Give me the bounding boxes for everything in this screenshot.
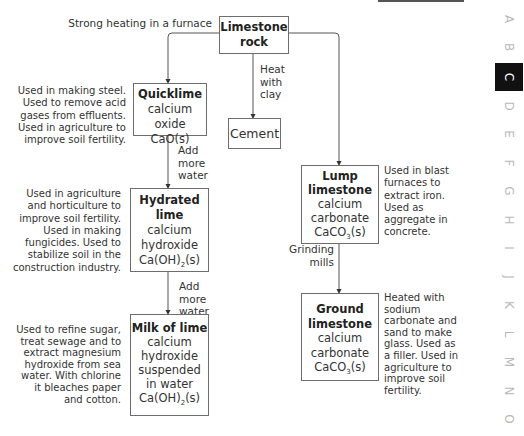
ground-limestone-formula: CaCO3(s) <box>302 360 378 375</box>
milk-of-lime-name-2: hydroxide <box>131 349 208 363</box>
index-letter-n[interactable]: N <box>496 378 522 404</box>
note-line: improve soil fertility. <box>8 213 121 225</box>
edge-label-line: mills <box>286 256 334 269</box>
hydrated-lime-node: Hydrated lime calcium hydroxide Ca(OH)2(… <box>130 188 209 272</box>
note-line: Heated with <box>384 292 476 304</box>
note-line: sodium <box>384 304 476 316</box>
note-line: stabilize soil in the <box>8 249 121 261</box>
note-line: Used to refine sugar, <box>8 324 121 336</box>
quicklime-name: calcium oxide <box>134 102 206 132</box>
hydrated-lime-title-1: Hydrated <box>131 193 208 208</box>
note-line: hydroxide from sea <box>8 359 121 371</box>
lump-limestone-title-2: limestone <box>302 183 378 197</box>
add-more-water-label-2: Add more water <box>179 280 209 318</box>
index-letter-k[interactable]: K <box>496 292 522 318</box>
ground-limestone-name-2: carbonate <box>302 346 378 361</box>
note-line: Used in agriculture <box>8 188 121 200</box>
index-letter-i[interactable]: I <box>496 235 522 261</box>
edge-label-line: Grinding <box>286 243 334 256</box>
note-line: Used in making <box>8 225 121 237</box>
milk-of-lime-formula: Ca(OH)2(s) <box>131 391 208 405</box>
alphabet-index-sidebar: A B C D E F G H I J K L M N O <box>490 0 524 436</box>
note-line: and cotton. <box>8 394 121 406</box>
hydrated-lime-uses-note: Used in agriculture and horticulture to … <box>8 188 121 274</box>
limestone-rock-title-1: Limestone <box>220 20 288 35</box>
note-line: extract iron. <box>384 190 474 202</box>
note-line: Used in making steel. <box>8 85 126 97</box>
lump-limestone-node: Lump limestone calcium carbonate CaCO3(s… <box>301 165 379 244</box>
heat-with-clay-label: Heat with clay <box>260 63 285 101</box>
milk-of-lime-title: Milk of lime <box>131 321 208 335</box>
edge-label-line: more <box>178 157 208 170</box>
note-line: extract magnesium <box>8 347 121 359</box>
milk-of-lime-name-3: suspended <box>131 363 208 377</box>
ground-limestone-name-1: calcium <box>302 331 378 346</box>
milk-of-lime-name-4: in water <box>131 377 208 391</box>
note-line: treat sewage and to <box>8 336 121 348</box>
note-line: improve soil fertility. <box>8 134 126 146</box>
ground-limestone-title-2: limestone <box>302 317 378 332</box>
index-letter-d[interactable]: D <box>496 93 522 119</box>
index-letter-f[interactable]: F <box>496 150 522 176</box>
hydrated-lime-title-2: lime <box>131 208 208 223</box>
index-letter-a[interactable]: A <box>496 6 522 32</box>
note-line: agriculture to <box>384 362 476 374</box>
limestone-rock-node: Limestone rock <box>219 16 289 54</box>
index-letter-l[interactable]: L <box>496 321 522 347</box>
cement-node: Cement <box>228 118 281 149</box>
index-letter-b[interactable]: B <box>496 34 522 60</box>
note-line: furnaces to <box>384 177 474 189</box>
index-letter-c[interactable]: C <box>495 63 523 91</box>
edge-label-line: Add <box>179 280 209 293</box>
lump-limestone-name-2: carbonate <box>302 211 378 225</box>
edge-label-line: clay <box>260 88 285 101</box>
note-line: Used in blast <box>384 165 474 177</box>
note-line: Used to remove acid <box>8 97 126 109</box>
note-line: Used in agriculture to <box>8 122 126 134</box>
note-line: glass. Used as <box>384 338 476 350</box>
hydrated-lime-name-2: hydroxide <box>131 238 208 253</box>
ground-limestone-title-1: Ground <box>302 302 378 317</box>
add-more-water-label-1: Add more water <box>178 144 208 182</box>
milk-of-lime-node: Milk of lime calcium hydroxide suspended… <box>130 314 209 416</box>
quicklime-node: Quicklime calcium oxide CaO(s) <box>133 83 207 136</box>
note-line: it bleaches paper <box>8 382 121 394</box>
index-letter-o[interactable]: O <box>496 406 522 432</box>
strong-heating-label: Strong heating in a furnace <box>60 17 212 30</box>
edge-label-line: water <box>178 169 208 182</box>
note-line: concrete. <box>384 226 474 238</box>
note-line: Used as <box>384 202 474 214</box>
quicklime-title: Quicklime <box>134 87 206 102</box>
note-line: improve soil <box>384 373 476 385</box>
index-letter-g[interactable]: G <box>496 178 522 204</box>
grinding-mills-label: Grinding mills <box>286 243 334 268</box>
note-line: sand to make <box>384 327 476 339</box>
note-line: fungicides. Used to <box>8 237 121 249</box>
hydrated-lime-formula: Ca(OH)2(s) <box>131 253 208 268</box>
edge-label-line: Add <box>178 144 208 157</box>
note-line: aggregate in <box>384 214 474 226</box>
index-letter-m[interactable]: M <box>496 349 522 375</box>
milk-of-lime-uses-note: Used to refine sugar, treat sewage and t… <box>8 324 121 405</box>
index-letter-j[interactable]: J <box>496 264 522 290</box>
milk-of-lime-name-1: calcium <box>131 335 208 349</box>
note-line: carbonate and <box>384 315 476 327</box>
edge-label-line: with <box>260 76 285 89</box>
lump-limestone-formula-line: CaCO3(s) <box>302 225 378 239</box>
note-line: gases from effluents. <box>8 110 126 122</box>
index-letter-e[interactable]: E <box>496 121 522 147</box>
cement-title: Cement <box>229 126 280 141</box>
note-line: a filler. Used in <box>384 350 476 362</box>
index-letter-h[interactable]: H <box>496 207 522 233</box>
quicklime-uses-note: Used in making steel. Used to remove aci… <box>8 85 126 146</box>
ground-limestone-node: Ground limestone calcium carbonate CaCO3… <box>301 293 379 381</box>
lump-limestone-uses-note: Used in blast furnaces to extract iron. … <box>384 165 474 239</box>
note-line: fertility. <box>384 385 476 397</box>
edge-label-line: Heat <box>260 63 285 76</box>
edge-label-line: more <box>179 293 209 306</box>
lump-limestone-title-1: Lump <box>302 169 378 183</box>
note-line: water. With chlorine <box>8 370 121 382</box>
lump-limestone-name-1: calcium <box>302 197 378 211</box>
ground-limestone-uses-note: Heated with sodium carbonate and sand to… <box>384 292 476 396</box>
limestone-rock-title-2: rock <box>220 35 288 50</box>
